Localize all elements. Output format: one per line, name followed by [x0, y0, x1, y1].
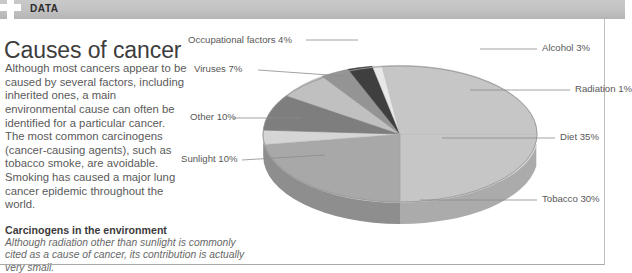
plus-icon-vertical-bar — [7, 0, 14, 19]
pie-top-face — [263, 65, 537, 202]
leader-line-viruses — [258, 70, 343, 76]
intro-paragraph: Although most cancers appear to be cause… — [5, 62, 187, 212]
caption-heading: Carcinogens in the environment — [5, 224, 167, 236]
pie-label-diet: Diet 35% — [560, 131, 599, 142]
pie-chart-svg — [180, 20, 625, 255]
page-title: Causes of cancer — [4, 37, 181, 64]
pie-label-sunlight: Sunlight 10% — [181, 153, 238, 164]
pie-label-radiation: Radiation 1% — [575, 83, 632, 94]
pie-label-alcohol: Alcohol 3% — [542, 42, 590, 53]
pie-slice-diet-upper — [382, 65, 537, 134]
pie-label-viruses: Viruses 7% — [194, 63, 242, 74]
data-header-bar: DATA — [0, 0, 625, 19]
bottom-divider — [0, 264, 604, 265]
pie-label-tobacco: Tobacco 30% — [542, 193, 600, 204]
header-label: DATA — [30, 3, 59, 14]
pie-label-occupational-factors: Occupational factors 4% — [188, 34, 292, 45]
pie-label-other: Other 10% — [190, 111, 236, 122]
plus-icon — [0, 0, 21, 19]
pie-chart: Occupational factors 4% Viruses 7% Other… — [180, 20, 625, 255]
